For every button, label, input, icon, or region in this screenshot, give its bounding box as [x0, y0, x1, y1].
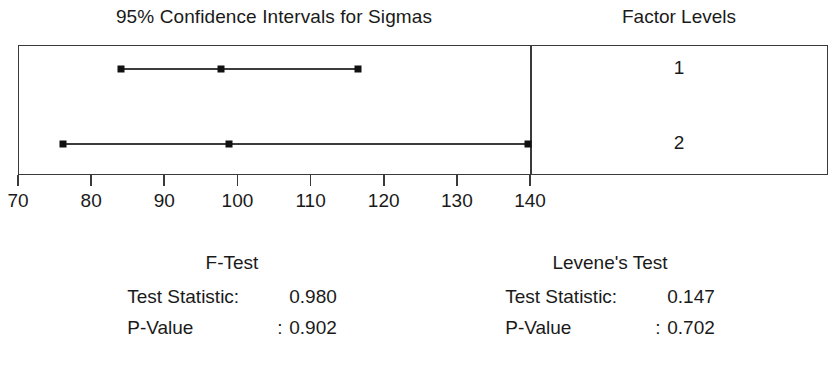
f-test-pvalue-label: P-Value	[127, 317, 277, 339]
levene-test-name: Levene's Test	[420, 252, 800, 274]
f-test-statistic-row: Test Statistic: 0.980	[42, 286, 422, 308]
levene-test-block: Levene's Test Test Statistic: 0.147 P-Va…	[420, 252, 800, 348]
levene-test-statistic-spacer	[655, 286, 667, 308]
x-axis-tick-label: 90	[154, 190, 175, 212]
x-axis-tick-label: 130	[441, 190, 473, 212]
levene-test-statistic-value: 0.147	[667, 286, 715, 308]
levene-test-pvalue-value: 0.702	[667, 317, 715, 339]
levene-test-pvalue-row: P-Value : 0.702	[420, 317, 800, 339]
x-axis-tick	[529, 175, 531, 186]
levene-test-pvalue-separator: :	[655, 317, 667, 339]
f-test-pvalue-row: P-Value : 0.902	[42, 317, 422, 339]
levene-test-statistic-label: Test Statistic:	[505, 286, 655, 308]
factor-level-label-2: 2	[530, 132, 828, 154]
x-axis-tick	[237, 175, 239, 186]
f-test-block: F-Test Test Statistic: 0.980 P-Value : 0…	[42, 252, 422, 348]
factor-levels-header: Factor Levels	[530, 6, 828, 28]
factor-level-label-1: 1	[530, 57, 828, 79]
f-test-statistic-value: 0.980	[289, 286, 337, 308]
x-axis-tick	[310, 175, 312, 186]
f-test-name: F-Test	[42, 252, 422, 274]
x-axis-tick	[163, 175, 165, 186]
x-axis-tick-label: 80	[81, 190, 102, 212]
x-axis-tick	[90, 175, 92, 186]
chart-title: 95% Confidence Intervals for Sigmas	[18, 6, 530, 28]
x-axis-tick-label: 110	[295, 190, 325, 212]
x-axis-tick-label: 100	[222, 190, 254, 212]
f-test-pvalue-value: 0.902	[289, 317, 337, 339]
x-axis-tick-label: 120	[368, 190, 400, 212]
x-axis-tick	[456, 175, 458, 186]
f-test-statistic-spacer	[277, 286, 289, 308]
f-test-statistic-label: Test Statistic:	[127, 286, 277, 308]
x-axis-tick	[383, 175, 385, 186]
levene-test-statistic-row: Test Statistic: 0.147	[420, 286, 800, 308]
x-axis-tick	[17, 175, 19, 186]
x-axis-tick-label: 140	[514, 190, 546, 212]
f-test-pvalue-separator: :	[277, 317, 289, 339]
x-axis-tick-label: 70	[7, 190, 28, 212]
chart-canvas: 95% Confidence Intervals for Sigmas Fact…	[0, 0, 840, 385]
levene-test-pvalue-label: P-Value	[505, 317, 655, 339]
